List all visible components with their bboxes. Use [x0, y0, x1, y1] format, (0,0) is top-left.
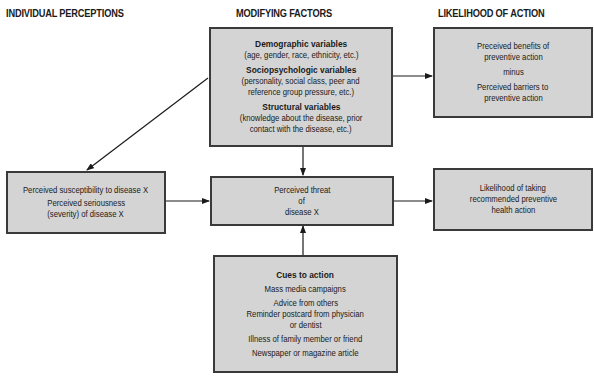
- action-line-2: recommended preventive: [469, 194, 556, 205]
- demographic-detail: (age, gender, race, ethnicity, etc.): [244, 50, 358, 61]
- seriousness-line-2: (severity) of disease X: [48, 209, 125, 220]
- minus-label: minus: [503, 67, 524, 78]
- cue-item: Illness of family member or friend: [249, 334, 363, 345]
- threat-line-1: Perceived threat: [274, 185, 330, 196]
- cue-item: Advice from others: [273, 298, 337, 309]
- cue-item: or dentist: [290, 320, 322, 331]
- cues-to-action-box: Cues to action Mass media campaigns Advi…: [213, 255, 398, 373]
- barriers-line-2: preventive action: [484, 93, 542, 104]
- sociopsychologic-detail-1: (personality, social class, peer and: [242, 76, 360, 87]
- benefits-line-2: preventive action: [484, 52, 542, 63]
- structural-title: Structural variables: [262, 102, 340, 113]
- cue-item: Newspaper or magazine article: [252, 348, 359, 359]
- cues-title: Cues to action: [277, 270, 335, 281]
- threat-line-2: of: [299, 196, 305, 207]
- threat-line-3: disease X: [285, 207, 319, 218]
- seriousness-line-1: Perceived seriousness: [47, 198, 125, 209]
- perceptions-box: Perceived susceptibility to disease X Pe…: [6, 171, 166, 234]
- demographic-title: Demographic variables: [255, 39, 347, 50]
- action-line-3: health action: [491, 205, 535, 216]
- barriers-line-1: Perceived barriers to: [477, 82, 548, 93]
- structural-detail-2: contact with the disease, etc.): [250, 124, 352, 135]
- sociopsychologic-detail-2: reference group pressure, etc.): [248, 87, 354, 98]
- benefits-line-1: Preceived benefits of: [477, 41, 549, 52]
- cue-item: Reminder postcard from physician: [247, 309, 364, 320]
- susceptibility-line: Perceived susceptibility to disease X: [23, 185, 148, 196]
- structural-detail-1: (knowledge about the disease, prior: [240, 113, 363, 124]
- arrow-modifying-to-perceptions: [87, 78, 208, 170]
- cue-item: Mass media campaigns: [265, 284, 346, 295]
- action-line-1: Likelihood of taking: [480, 183, 546, 194]
- benefits-barriers-box: Preceived benefits of preventive action …: [433, 27, 593, 118]
- sociopsychologic-title: Sociopsychologic variables: [246, 65, 356, 76]
- perceived-threat-box: Perceived threat of disease X: [210, 176, 394, 226]
- modifying-factors-box: Demographic variables (age, gender, race…: [209, 27, 393, 147]
- likelihood-action-box: Likelihood of taking recommended prevent…: [433, 168, 593, 231]
